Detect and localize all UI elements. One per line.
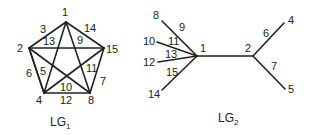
edge-label: 11: [168, 35, 179, 47]
node-label: 14: [148, 88, 160, 100]
edge-label: 6: [263, 27, 269, 39]
node-label: 1: [200, 42, 206, 54]
node-label: 4: [288, 14, 294, 26]
node-label: 10: [143, 35, 155, 47]
edge-label: 9: [179, 21, 185, 33]
edge-label: 7: [271, 60, 277, 72]
edge-label: 6: [26, 67, 32, 79]
edge-label: 11: [86, 62, 97, 74]
diagram-lg2: 91113156712810121445: [143, 9, 294, 100]
edge-label: 10: [60, 81, 72, 93]
edge-label: 9: [77, 34, 83, 46]
node-label: 2: [17, 42, 23, 54]
node-label: 12: [143, 56, 155, 68]
diagram-lg1: 314671213910115121548: [17, 6, 118, 106]
node-label: 2: [245, 42, 251, 54]
node-label: 8: [88, 94, 94, 106]
node-label: 15: [106, 43, 118, 55]
node-label: 5: [288, 83, 294, 95]
edge-label: 13: [43, 35, 55, 47]
caption-lg2: LG2: [218, 111, 239, 127]
edge-label: 3: [40, 23, 46, 35]
edge-label: 15: [166, 66, 178, 78]
edge-label: 14: [84, 22, 96, 34]
line-graph-figure: 314671213910115121548 911131567128101214…: [0, 0, 309, 135]
node-label: 4: [36, 94, 42, 106]
diagram-svg: 314671213910115121548 911131567128101214…: [0, 0, 309, 135]
edge-label: 13: [165, 48, 177, 60]
caption-lg1: LG1: [50, 115, 71, 131]
node-label: 1: [62, 6, 68, 18]
edge-label: 12: [60, 94, 72, 106]
edge-label: 7: [100, 75, 106, 87]
edge-label: 5: [40, 65, 46, 77]
edge-2-5: [253, 56, 285, 89]
node-label: 8: [153, 9, 159, 21]
